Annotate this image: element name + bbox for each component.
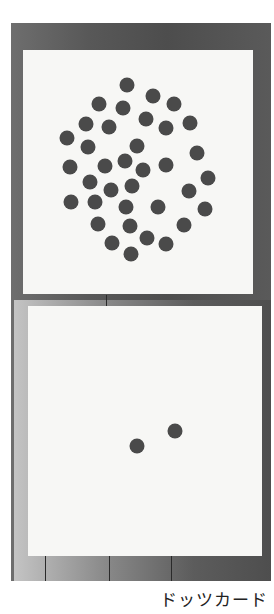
frame-seam xyxy=(45,556,46,581)
dot xyxy=(159,158,174,173)
dot xyxy=(92,97,107,112)
dot xyxy=(182,184,197,199)
dot xyxy=(64,195,79,210)
caption: ドッツカード xyxy=(160,586,268,611)
dot xyxy=(118,154,133,169)
dot xyxy=(88,195,103,210)
dot xyxy=(136,163,151,178)
dot xyxy=(81,140,96,155)
dot xyxy=(159,237,174,252)
dot xyxy=(63,160,78,175)
dot xyxy=(177,218,192,233)
dot xyxy=(91,217,106,232)
dot xyxy=(190,146,205,161)
dot xyxy=(116,101,131,116)
dot xyxy=(159,121,174,136)
dot xyxy=(83,175,98,190)
dot xyxy=(151,200,166,215)
dot xyxy=(168,424,183,439)
dot xyxy=(123,219,138,234)
dot xyxy=(139,112,154,127)
dot-card-two xyxy=(28,306,262,556)
dot xyxy=(120,78,135,93)
dot xyxy=(201,171,216,186)
dot xyxy=(125,179,140,194)
dot xyxy=(79,117,94,132)
dot xyxy=(98,159,113,174)
dot xyxy=(130,439,145,454)
dot xyxy=(119,200,134,215)
dot xyxy=(183,116,198,131)
dot xyxy=(102,120,117,135)
dot xyxy=(130,139,145,154)
frame-seam xyxy=(171,556,172,581)
dot xyxy=(198,202,213,217)
dot xyxy=(104,183,119,198)
dot xyxy=(140,231,155,246)
frame-seam xyxy=(109,556,110,581)
dot xyxy=(167,97,182,112)
dot xyxy=(60,131,75,146)
dot xyxy=(105,236,120,251)
dot xyxy=(146,89,161,104)
dot xyxy=(124,247,139,262)
